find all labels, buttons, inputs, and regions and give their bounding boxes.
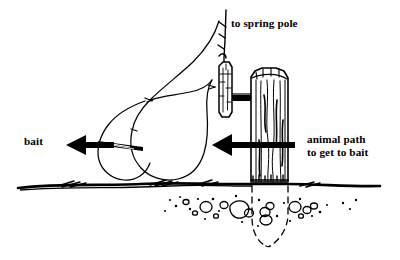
pebbles (183, 200, 318, 226)
snare-loop-large (131, 21, 219, 180)
trap-diagram-illustration (0, 0, 400, 260)
bait-arrow (66, 135, 114, 155)
label-animal-path: animal pathto get to bait (307, 133, 368, 159)
post (251, 68, 288, 182)
label-to-spring-pole: to spring pole (231, 17, 298, 30)
label-animal-path-line1: animal path (307, 133, 366, 145)
label-animal-path-line2: to get to bait (307, 146, 368, 158)
label-bait: bait (24, 135, 43, 148)
spring-pole-cord (218, 10, 226, 66)
toggle-stick (219, 62, 232, 117)
diagram-canvas: to spring pole bait animal pathto get to… (0, 0, 400, 260)
snare-loop-small (98, 101, 150, 180)
ground-line (18, 180, 380, 190)
